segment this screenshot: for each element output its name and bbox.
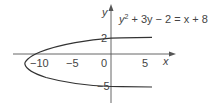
x-tick-neg10: −10 [30,57,49,69]
x-axis-arrow-icon [169,52,176,57]
x-tick-5: 5 [142,57,148,69]
y-axis-arrow-icon [109,4,114,11]
y-tick-neg5: −5 [97,80,110,92]
parabola-chart: −10 −5 0 5 2 −5 x y y2 + 3y − 2 = x + 8 [0,0,211,109]
x-tick-neg5: −5 [66,57,79,69]
equation-label: y2 + 3y − 2 = x + 8 [118,13,208,25]
x-axis-label: x [162,55,169,67]
x-tick-0: 0 [101,57,107,69]
equation-rest: + 3y − 2 = x + 8 [128,13,208,25]
y-axis-label: y [101,6,109,18]
y-tick-2: 2 [101,32,107,44]
